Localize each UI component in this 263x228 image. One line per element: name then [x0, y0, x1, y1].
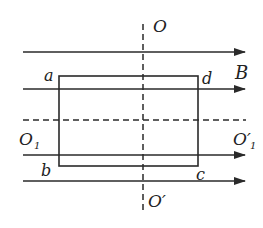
- label-c: c: [196, 165, 205, 184]
- label-O1-prime: O′ 1: [233, 129, 256, 151]
- label-b: b: [41, 161, 51, 180]
- svg-text:1: 1: [34, 140, 40, 151]
- label-d: d: [202, 69, 212, 88]
- coil-in-field-diagram: O O′ B a d b c O 1 O′ 1: [0, 0, 263, 228]
- label-O: O: [153, 16, 167, 36]
- label-O1: O 1: [19, 129, 40, 151]
- label-O-prime: O′: [148, 191, 166, 211]
- label-a: a: [44, 66, 54, 85]
- diagram-canvas: O O′ B a d b c O 1 O′ 1: [0, 0, 263, 228]
- svg-text:O: O: [19, 129, 33, 149]
- label-B: B: [234, 62, 248, 83]
- svg-text:O′: O′: [233, 129, 251, 149]
- svg-text:1: 1: [250, 140, 256, 151]
